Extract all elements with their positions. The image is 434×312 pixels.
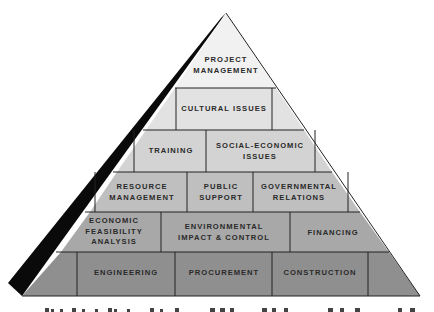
- row-1-fill: [175, 13, 276, 88]
- label-economic-feasibility-analysis: ECONOMIC FEASIBILITY ANALYSIS: [85, 216, 142, 248]
- label-social-economic-issues: SOCIAL-ECONOMIC ISSUES: [216, 141, 304, 162]
- label-governmental-relations: GOVERNMENTAL RELATIONS: [261, 182, 337, 203]
- label-engineering: ENGINEERING: [94, 268, 158, 279]
- label-procurement: PROCUREMENT: [189, 268, 260, 279]
- label-training: TRAINING: [149, 146, 194, 157]
- label-financing: FINANCING: [307, 228, 358, 239]
- label-environmental-impact-control: ENVIRONMENTAL IMPACT & CONTROL: [178, 222, 270, 243]
- caption-fragment: [0, 302, 434, 312]
- label-public-support: PUBLIC SUPPORT: [199, 182, 243, 203]
- label-project-management: PROJECT MANAGEMENT: [193, 55, 258, 76]
- label-construction: CONSTRUCTION: [283, 268, 356, 279]
- label-cultural-issues: CULTURAL ISSUES: [181, 104, 267, 115]
- label-resource-management: RESOURCE MANAGEMENT: [109, 182, 174, 203]
- cropped-caption-remnant: [0, 302, 434, 312]
